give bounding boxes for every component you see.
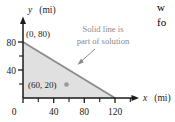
x-tick-label-40: 40: [49, 107, 59, 117]
graph-figure: 80 40 0 40 80 120 y (mi) x (mi) (0, 80) …: [0, 0, 175, 122]
x-tick-label-120: 120: [108, 107, 123, 117]
marked-point-marker: [64, 82, 69, 87]
x-tick-label-0: 0: [12, 107, 17, 117]
y-intercept-label: (0, 80): [26, 29, 50, 39]
x-axis-title: x (mi): [142, 87, 171, 104]
y-tick-label-40: 40: [7, 66, 17, 76]
y-axis-label-letter: y: [27, 5, 33, 15]
coordinate-plane-svg: 80 40 0 40 80 120 y (mi) x (mi) (0, 80) …: [0, 0, 175, 122]
x-axis-unit: (mi): [154, 93, 170, 104]
y-axis-unit: (mi): [39, 5, 55, 16]
annotation-line-2: part of solution: [77, 36, 130, 46]
y-axis-title: y (mi): [27, 0, 56, 16]
marked-point-label: (60, 20): [28, 80, 57, 90]
x-axis-arrowhead: [132, 95, 140, 101]
annotation-arrow-shaft: [81, 49, 96, 62]
page-edge-text-line-2: fo: [157, 15, 166, 30]
page-edge-text-line-1: w: [157, 0, 166, 15]
y-tick-label-80: 80: [7, 38, 17, 48]
y-axis-arrowhead: [20, 17, 26, 25]
x-axis-label-letter: x: [142, 93, 148, 103]
page-edge-text: w fo: [157, 0, 166, 30]
x-tick-label-80: 80: [80, 107, 90, 117]
annotation-line-1: Solid line is: [82, 24, 124, 34]
